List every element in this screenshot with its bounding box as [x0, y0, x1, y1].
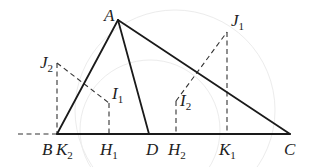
dashed-construction-lines	[18, 32, 227, 134]
triangle-diagram: A J1 J2 I1 I2 B K2 H1 D H2 K1 C	[0, 0, 316, 167]
label-c: C	[284, 140, 296, 159]
triangle-sides	[57, 20, 290, 134]
label-k1: K1	[218, 140, 236, 161]
label-i1: I1	[111, 84, 123, 105]
label-j1: J1	[231, 11, 244, 32]
label-d: D	[145, 140, 159, 159]
label-h1: H1	[99, 140, 118, 161]
label-k2: K2	[55, 140, 73, 161]
label-a: A	[103, 6, 115, 25]
side-ab	[57, 20, 118, 134]
segment-j2-i1	[57, 63, 109, 103]
label-h2: H2	[167, 140, 186, 161]
label-b: B	[42, 140, 53, 159]
label-j2: J2	[40, 53, 53, 74]
label-i2: I2	[179, 91, 191, 112]
